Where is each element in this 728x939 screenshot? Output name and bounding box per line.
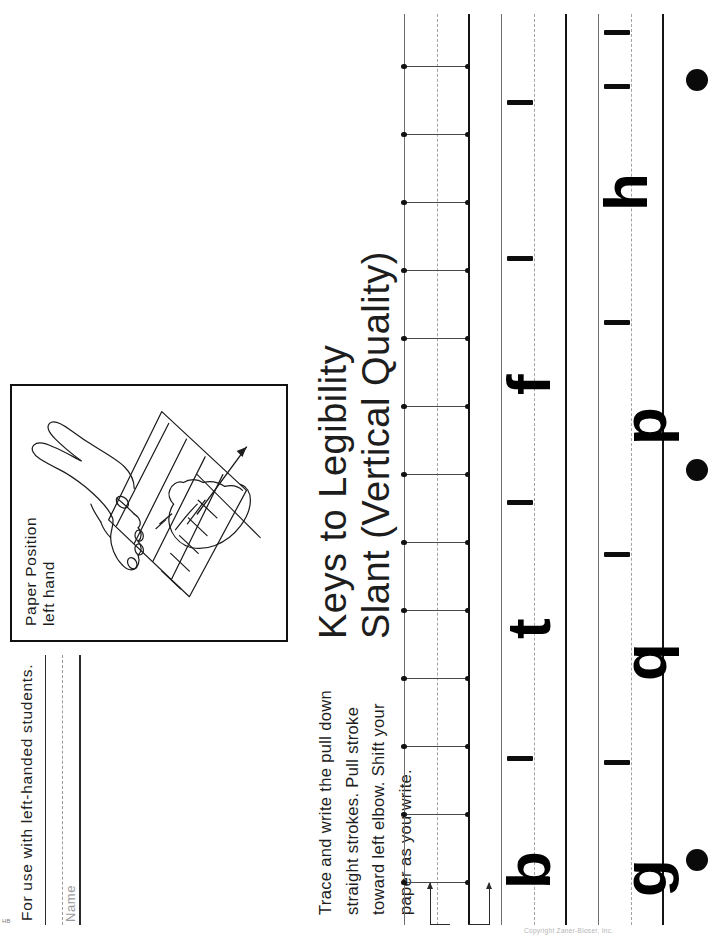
trace-stroke[interactable]	[404, 338, 468, 339]
practice-row[interactable]	[404, 14, 470, 925]
row-midline-dashed	[437, 14, 438, 925]
trace-stroke[interactable]	[404, 66, 468, 67]
practice-letter: q	[614, 643, 676, 681]
row-topline	[404, 14, 405, 925]
stroke-dash-mark	[507, 256, 533, 261]
row-baseline	[565, 14, 567, 925]
trace-stroke[interactable]	[404, 814, 468, 815]
start-arrow	[430, 883, 431, 925]
stroke-dash-mark	[507, 756, 533, 761]
practice-row[interactable]: g q p h	[598, 14, 664, 925]
trace-stroke[interactable]	[404, 474, 468, 475]
sheet-content: For use with left-handed students. Name …	[0, 0, 728, 939]
row-baseline	[468, 14, 470, 925]
trace-stroke[interactable]	[404, 406, 468, 407]
stroke-dash-mark	[507, 500, 533, 505]
row-midline-dashed	[534, 14, 535, 925]
paper-position-illustration-icon	[12, 386, 286, 640]
practice-letter: t	[498, 618, 560, 639]
trace-stroke[interactable]	[404, 882, 468, 883]
practice-row[interactable]: b t f	[501, 14, 567, 925]
trace-stroke[interactable]	[404, 678, 468, 679]
name-rule-bottom	[79, 655, 81, 925]
trace-stroke[interactable]	[404, 610, 468, 611]
page-title-line1: Keys to Legibility	[312, 345, 354, 639]
practice-letter: h	[595, 173, 657, 211]
start-arrow-stem	[430, 924, 450, 925]
trace-stroke[interactable]	[404, 134, 468, 135]
worksheet-page: HB Copyright Zaner-Bloser, Inc. For use …	[0, 0, 728, 939]
practice-letter: p	[614, 407, 676, 445]
row-midline-dashed	[631, 14, 632, 925]
row-topline	[598, 14, 599, 925]
trace-stroke[interactable]	[404, 270, 468, 271]
practice-letter: g	[614, 859, 676, 897]
stroke-dash-mark	[507, 100, 533, 105]
page-title: Keys to Legibility Slant (Vertical Quali…	[312, 251, 397, 639]
name-rule-top	[45, 655, 46, 925]
trace-stroke[interactable]	[404, 746, 468, 747]
start-arrow	[489, 883, 490, 925]
stroke-dash-mark	[604, 84, 630, 89]
start-arrow-stem	[468, 924, 490, 925]
stroke-dash-mark	[604, 552, 630, 557]
trace-stroke[interactable]	[404, 542, 468, 543]
name-label: Name	[63, 885, 78, 922]
stroke-dash-mark	[604, 760, 630, 765]
stroke-dash-mark	[604, 30, 630, 35]
row-baseline	[662, 14, 664, 925]
stroke-dash-mark	[604, 320, 630, 325]
trace-stroke[interactable]	[404, 202, 468, 203]
page-title-line2: Slant (Vertical Quality)	[355, 251, 397, 639]
paper-position-box: Paper Position left hand	[10, 384, 288, 642]
instructions-text: Trace and write the pull down straight s…	[312, 663, 419, 915]
use-note: For use with left-handed students.	[18, 664, 36, 921]
practice-letter: f	[498, 374, 560, 395]
practice-letter: b	[498, 851, 560, 889]
row-topline	[501, 14, 502, 925]
